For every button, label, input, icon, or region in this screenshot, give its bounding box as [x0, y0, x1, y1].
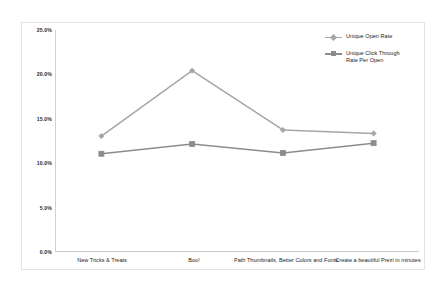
square-marker-icon	[190, 142, 195, 147]
square-marker-icon	[280, 150, 285, 155]
square-marker-icon	[371, 141, 376, 146]
series-open-rate	[99, 68, 376, 139]
series-line	[101, 143, 373, 154]
series-line	[101, 71, 373, 136]
chart-svg	[0, 0, 445, 292]
chart-page: 25.0% 20.0% 15.0% 10.0% 5.0% 0.0% New Tr…	[0, 0, 445, 292]
series-click-through	[99, 141, 376, 157]
diamond-marker-icon	[371, 131, 376, 136]
square-marker-icon	[99, 151, 104, 156]
